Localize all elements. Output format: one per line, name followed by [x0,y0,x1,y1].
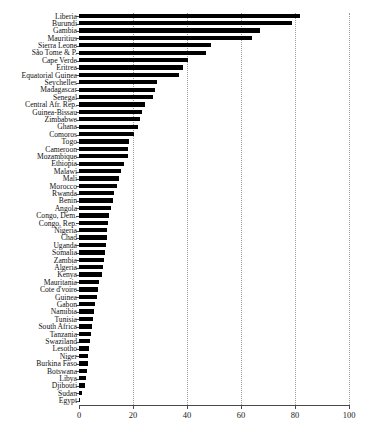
x-axis-line [79,405,350,406]
bar [79,147,128,151]
bar [79,376,86,380]
bar [79,95,153,99]
bar-row: Comoros [0,131,372,138]
bar-row: Algeria [0,264,372,271]
bar [79,21,292,25]
bar [79,73,179,77]
bar [79,235,107,239]
bar-row: Lesotho [0,346,372,353]
x-tick-80 [295,405,296,409]
bar [79,132,134,136]
horizontal-bar-chart: LiberiaBurundiGambiaMauritiusSierra Leon… [0,0,372,434]
bar [79,206,111,210]
bar [79,125,138,129]
bar [79,287,98,291]
x-tick-label-60: 60 [237,410,246,420]
bar [79,354,88,358]
bar [79,369,87,373]
bar [79,102,145,106]
bar [79,309,94,313]
bar [79,258,104,262]
bar-row: Rwanda [0,191,372,198]
bar [79,169,121,173]
bar [79,191,114,195]
bar [79,154,128,158]
bar [79,265,103,269]
bar-row: Malawi [0,168,372,175]
x-tick-20 [133,405,134,409]
x-tick-label-80: 80 [291,410,300,420]
bar [79,398,80,402]
bar [79,346,89,350]
bar [79,272,102,276]
x-tick-40 [187,405,188,409]
x-tick-label-40: 40 [183,410,192,420]
bar [79,184,117,188]
bar [79,110,142,114]
bar [79,139,129,143]
bar [79,36,252,40]
bar [79,221,108,225]
bar [79,324,92,328]
bar-row: Botswana [0,368,372,375]
bar [79,51,206,55]
bar-rows: LiberiaBurundiGambiaMauritiusSierra Leon… [0,13,372,405]
bar [79,295,97,299]
bar [79,228,107,232]
bar-row: Egypt [0,398,372,405]
bar [79,198,113,202]
bar [79,302,95,306]
bar-row: Djibouti [0,383,372,390]
x-tick-label-20: 20 [129,410,138,420]
bar-row: Nigeria [0,227,372,234]
bar [79,280,99,284]
bar [79,162,124,166]
bar [79,250,105,254]
bar [79,117,140,121]
bar [79,332,91,336]
category-label: Egypt [59,396,77,405]
x-tick-60 [241,405,242,409]
bar-row: Zimbabwe [0,117,372,124]
x-tick-label-100: 100 [343,410,356,420]
bar [79,28,260,32]
bar [79,88,155,92]
bar [79,43,211,47]
bar [79,14,300,18]
bar [79,361,88,365]
bar [79,176,119,180]
bar [79,317,93,321]
bar [79,58,188,62]
bar [79,213,109,217]
bar [79,65,183,69]
bar [79,391,82,395]
bar [79,339,90,343]
bar [79,383,85,387]
x-tick-0 [79,405,80,409]
bar [79,243,106,247]
bar-row: Sudan [0,390,372,397]
x-tick-label-0: 0 [77,410,81,420]
bar [79,80,157,84]
x-tick-100 [349,405,350,409]
